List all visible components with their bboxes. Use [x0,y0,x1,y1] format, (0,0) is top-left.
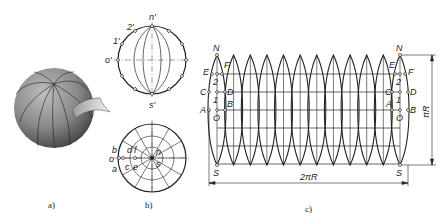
left-label-E: E [203,67,210,77]
panel-b-front-view: n' s' o' 1' 2' [105,12,190,110]
caption-a: a) [48,200,55,210]
label-o-prime: o' [105,55,112,65]
caption-b: b) [145,200,153,210]
left-label-2: 2 [212,77,218,87]
left-label-B: B [227,99,233,109]
right-label-A: A [385,99,392,109]
label-2-prime: 2' [126,22,134,32]
panel-b-top-view: b o a d f c e n s b) [109,120,190,210]
label-a: a [112,164,117,174]
label-n-prime: n' [149,12,156,22]
label-o: o [109,154,114,164]
label-f: f [134,145,138,155]
right-label-2: 2 [395,77,401,87]
label-e: e [133,162,138,172]
left-label-F: F [224,60,230,70]
right-label-1: 1 [396,95,401,105]
label-s-prime: s' [149,100,156,110]
right-label-F: F [408,67,414,77]
left-label-N: N [213,43,220,53]
figure-canvas: a) n' s' o' 1' 2' [0,0,443,224]
right-label-N: N [396,43,403,53]
caption-c: c) [305,204,312,214]
right-label-D: D [410,87,417,97]
right-label-S: S [396,168,402,178]
left-label-S: S [213,168,219,178]
label-s: s [156,159,161,169]
left-label-D: D [227,87,234,97]
dim-piR: πR [421,105,431,118]
label-1-prime: 1' [113,36,120,46]
left-label-1: 1 [213,95,218,105]
left-label-C: C [200,87,207,97]
right-label-E: E [389,60,396,70]
panel-a-sphere: a) [14,68,110,210]
dim-2piR: 2πR [299,172,318,182]
label-c: c [125,162,130,172]
left-label-A: A [199,105,206,115]
left-label-O: O [213,113,220,123]
label-n: n [156,147,161,157]
right-label-C: C [385,87,392,97]
panel-c-development: N E F 2 C D 1 A B O S N E F 2 C D 1 A B … [199,43,436,214]
right-label-B: B [410,105,416,115]
right-label-O: O [396,113,403,123]
